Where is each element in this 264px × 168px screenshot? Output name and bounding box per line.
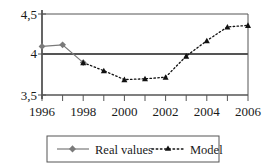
x-tick-label-2006: 2006 <box>235 104 262 119</box>
x-tick-label-2000: 2000 <box>111 104 137 119</box>
line-chart: 4,5 4 3,5 1 <box>0 0 264 168</box>
chart-container: 4,5 4 3,5 1 <box>0 0 264 168</box>
legend-label-real-values: Real values <box>95 143 153 157</box>
y-tick-label-4: 4 <box>31 46 38 61</box>
y-tick-label-4-5: 4,5 <box>21 7 37 22</box>
x-tick-label-2004: 2004 <box>194 104 221 119</box>
legend: Real values Model <box>47 136 223 162</box>
x-tick-label-1998: 1998 <box>70 104 96 119</box>
legend-label-model: Model <box>190 143 223 157</box>
y-tick-label-3-5: 3,5 <box>21 88 37 103</box>
x-tick-label-1996: 1996 <box>29 104 56 119</box>
x-tick-label-2002: 2002 <box>153 104 179 119</box>
